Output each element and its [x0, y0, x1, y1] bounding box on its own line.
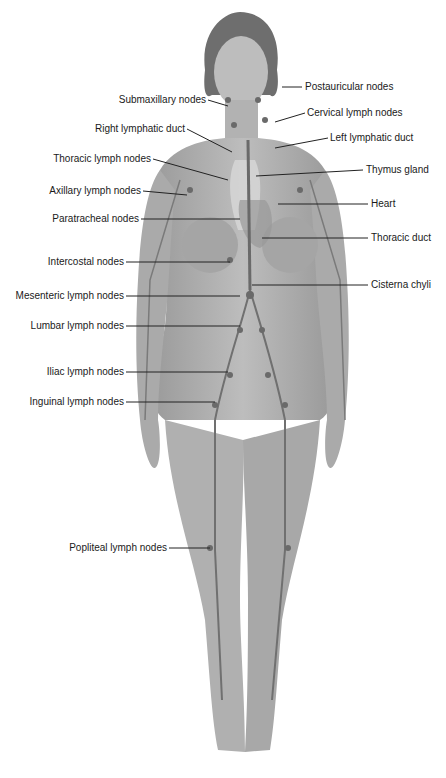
label-paratracheal-nodes: Paratracheal nodes [52, 213, 139, 225]
label-axillary-lymph-nodes: Axillary lymph nodes [49, 185, 141, 197]
label-inguinal-lymph-nodes: Inguinal lymph nodes [29, 396, 124, 408]
label-postauricular-nodes: Postauricular nodes [305, 81, 393, 93]
label-heart: Heart [371, 198, 395, 210]
label-intercostal-nodes: Intercostal nodes [48, 256, 124, 268]
lymphatic-system-figure: Submaxillary nodes Right lymphatic duct … [0, 0, 446, 778]
label-submaxillary-nodes: Submaxillary nodes [119, 94, 206, 106]
label-cisterna-chyli: Cisterna chyli [371, 279, 431, 291]
label-cervical-lymph-nodes: Cervical lymph nodes [307, 107, 403, 119]
label-left-lymphatic-duct: Left lymphatic duct [330, 132, 413, 144]
label-iliac-lymph-nodes: Iliac lymph nodes [47, 366, 124, 378]
label-lumbar-lymph-nodes: Lumbar lymph nodes [31, 320, 124, 332]
label-mesenteric-lymph-nodes: Mesenteric lymph nodes [16, 290, 124, 302]
label-right-lymphatic-duct: Right lymphatic duct [95, 123, 185, 135]
label-popliteal-lymph-nodes: Popliteal lymph nodes [69, 542, 167, 554]
label-thoracic-lymph-nodes: Thoracic lymph nodes [53, 153, 151, 165]
label-thoracic-duct: Thoracic duct [371, 232, 431, 244]
label-thymus-gland: Thymus gland [366, 164, 429, 176]
